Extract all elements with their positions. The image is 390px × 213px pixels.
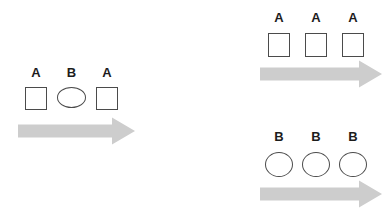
labeled-shape: A: [96, 66, 118, 110]
right-arrow-icon: [18, 117, 136, 145]
shape-label: B: [311, 130, 320, 143]
square-shape: [342, 33, 364, 57]
shape-label: A: [31, 66, 40, 79]
shape-label: B: [348, 130, 357, 143]
labeled-shape: A: [342, 11, 364, 57]
labeled-shape: A: [305, 11, 327, 57]
ellipse-shape: [302, 152, 330, 177]
shape-label: B: [274, 130, 283, 143]
group-top-right-aaa-sequence: A A A: [260, 11, 390, 91]
ellipse-shape: [57, 87, 86, 108]
labeled-shape: A: [268, 11, 290, 57]
labeled-shape-row: B B B: [260, 130, 390, 177]
square-shape: [96, 87, 118, 110]
ellipse-shape: [265, 152, 293, 177]
shape-label: B: [67, 66, 76, 79]
square-shape: [305, 33, 327, 57]
shape-label: A: [348, 11, 357, 24]
right-arrow-icon: [260, 180, 383, 208]
labeled-shape: B: [265, 130, 293, 177]
right-arrow-icon: [260, 60, 383, 88]
labeled-shape-row: A B A: [18, 66, 158, 110]
labeled-shape: B: [339, 130, 367, 177]
shape-label: A: [102, 66, 111, 79]
shape-label: A: [311, 11, 320, 24]
diagram-canvas: A B A A A: [0, 0, 390, 213]
group-bottom-right-bbb-sequence: B B B: [260, 130, 390, 210]
labeled-shape: A: [25, 66, 47, 110]
square-shape: [268, 33, 290, 57]
ellipse-shape: [339, 152, 367, 177]
labeled-shape-row: A A A: [260, 11, 390, 57]
labeled-shape: B: [302, 130, 330, 177]
group-left-aba-sequence: A B A: [18, 66, 158, 148]
shape-label: A: [274, 11, 283, 24]
square-shape: [25, 87, 47, 110]
labeled-shape: B: [57, 66, 86, 108]
